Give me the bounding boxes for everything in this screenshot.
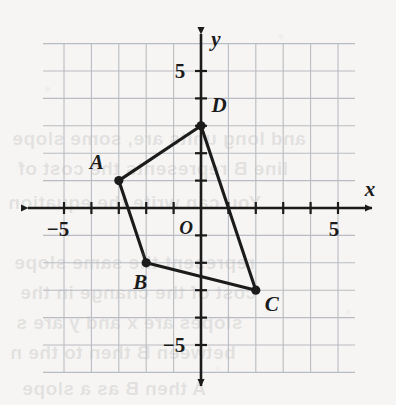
figure-container: and long units are, some slopeline B rep… <box>0 0 396 405</box>
axes <box>28 34 372 386</box>
x-tick-label-pos5: 5 <box>329 217 340 241</box>
x-axis-label: x <box>364 177 376 201</box>
y-tick-label-pos5: 5 <box>175 59 186 83</box>
coordinate-plane-figure: x y O −5 5 5 −5 ABCD <box>0 0 396 405</box>
y-tick-label-neg5: −5 <box>163 333 185 357</box>
vertex-label-b: B <box>132 270 147 294</box>
y-axis-label: y <box>208 27 221 51</box>
vertex-point-d <box>196 121 205 130</box>
vertex-label-d: D <box>210 93 226 117</box>
vertex-point-b <box>142 258 151 267</box>
vertex-point-c <box>251 286 260 295</box>
vertex-point-a <box>114 176 123 185</box>
axis-and-vertex-labels: x y O −5 5 5 −5 ABCD <box>47 27 375 357</box>
x-tick-label-neg5: −5 <box>47 217 69 241</box>
vertex-label-c: C <box>265 292 280 316</box>
vertex-label-a: A <box>88 150 104 174</box>
origin-label: O <box>179 217 193 238</box>
